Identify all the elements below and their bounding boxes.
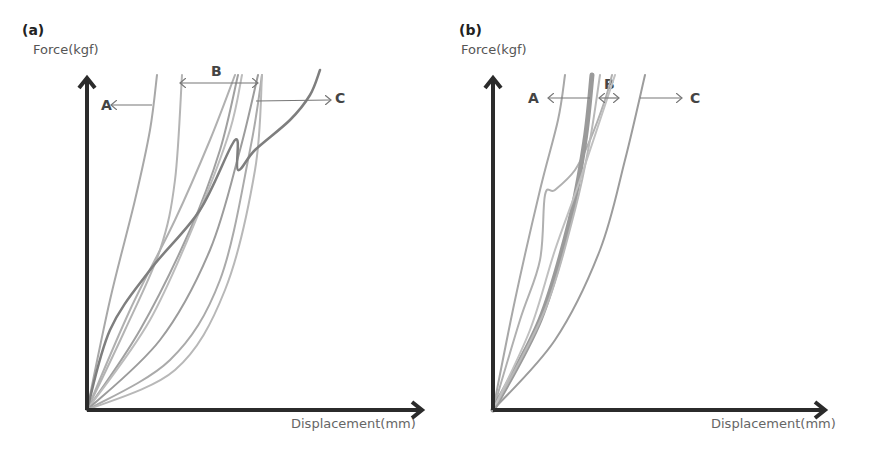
chart-panel-b: (b) Force(kgf) Displacement(mm) A B C [444, 0, 888, 464]
curves-group [493, 75, 645, 410]
curves-group [87, 70, 320, 410]
series-curve-4 [493, 75, 600, 410]
arrow-c [256, 100, 330, 101]
series-curve-2 [87, 75, 182, 410]
series-curve-1 [493, 75, 565, 410]
series-curve-2 [493, 75, 612, 410]
chart-panel-a: (a) Force(kgf) Displacement(mm) A B C [0, 0, 444, 464]
plot-area [444, 0, 888, 464]
series-curve-6 [493, 75, 645, 410]
plot-area [0, 0, 444, 464]
